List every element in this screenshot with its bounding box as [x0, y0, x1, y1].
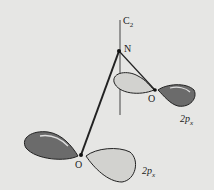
bond-n-o-lower [81, 51, 119, 155]
oxygen-upper-dot [153, 88, 157, 92]
c2-axis-label: C2 [123, 16, 133, 29]
nitrogen-label: N [124, 44, 131, 54]
oxygen-lower-dot [79, 153, 83, 157]
upper-orbital-main: 2p [180, 113, 190, 124]
nitrogen-atom-dot [117, 49, 121, 53]
lower-light-lobe [86, 149, 136, 182]
lower-orbital-sub: x [152, 171, 155, 179]
lower-orbital-main: 2p [142, 165, 152, 176]
upper-orbital-sub: x [190, 119, 193, 127]
lower-orbital-label: 2px [142, 166, 155, 179]
c2-text: C [123, 15, 130, 26]
oxygen-lower-label: O [75, 160, 82, 170]
upper-orbital-label: 2px [180, 114, 193, 127]
upper-dark-lobe [158, 85, 195, 107]
no2-orbital-diagram [0, 0, 214, 190]
c2-subscript: 2 [130, 21, 134, 29]
oxygen-upper-label: O [148, 94, 155, 104]
